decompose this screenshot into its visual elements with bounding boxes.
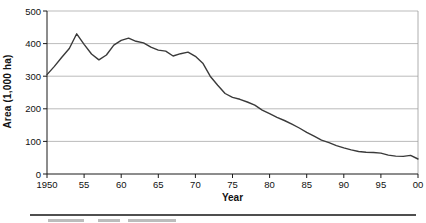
y-tick-label-200: 200 xyxy=(25,103,41,114)
area-series-line xyxy=(47,34,418,159)
chart-plot-area: 0100200300400500195055606570758085909500 xyxy=(0,0,426,223)
x-tick-label-1965: 65 xyxy=(153,179,164,190)
x-tick-label-1995: 95 xyxy=(376,179,387,190)
x-tick-label-1975: 75 xyxy=(227,179,238,190)
x-axis-title: Year xyxy=(47,192,418,203)
x-tick-label-1985: 85 xyxy=(301,179,312,190)
y-tick-label-0: 0 xyxy=(36,169,41,180)
line-chart-figure: 0100200300400500195055606570758085909500… xyxy=(0,0,426,223)
y-tick-label-500: 500 xyxy=(25,6,41,17)
footer-separator-line xyxy=(30,214,416,216)
x-tick-label-2000: 00 xyxy=(413,179,424,190)
y-tick-label-400: 400 xyxy=(25,38,41,49)
y-axis-title: Area (1,000 ha) xyxy=(2,27,13,157)
x-tick-label-1955: 55 xyxy=(79,179,90,190)
y-tick-label-300: 300 xyxy=(25,71,41,82)
x-tick-label-1960: 60 xyxy=(116,179,127,190)
clipped-text-fragment xyxy=(48,219,84,222)
x-tick-label-1990: 90 xyxy=(339,179,350,190)
y-tick-label-100: 100 xyxy=(25,136,41,147)
x-tick-label-1950: 1950 xyxy=(36,179,57,190)
x-tick-label-1980: 80 xyxy=(264,179,275,190)
x-tick-label-1970: 70 xyxy=(190,179,201,190)
clipped-text-fragment xyxy=(128,219,176,222)
clipped-text-fragment xyxy=(98,219,120,222)
clipped-caption-text xyxy=(0,219,426,223)
